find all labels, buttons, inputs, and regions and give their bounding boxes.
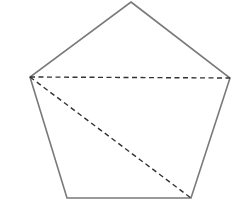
diagonal-left-right — [30, 77, 230, 78]
pentagon-figure — [0, 0, 252, 214]
diagonal-left-bottom-right — [30, 77, 191, 198]
pentagon-diagram — [0, 0, 252, 214]
